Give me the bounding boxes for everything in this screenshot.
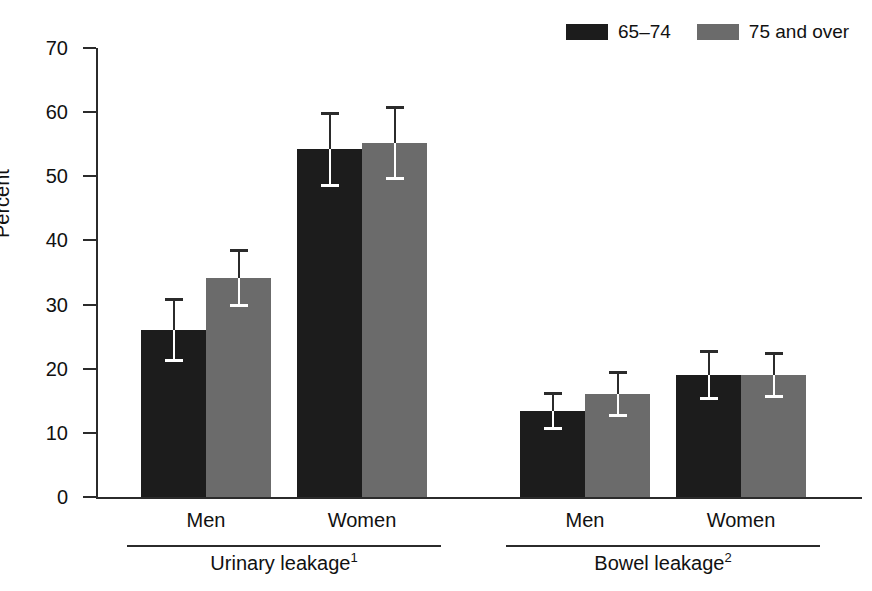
bar-75-and-over-0-error-bar [206, 249, 271, 307]
bar-65-74-2-error-bar [520, 392, 585, 430]
x-category-label-2: Men [525, 510, 645, 530]
legend-label-75-and-over: 75 and over [749, 22, 849, 41]
x-category-label-1: Women [302, 510, 422, 530]
group-label-0: Urinary leakage1 [144, 552, 424, 574]
bar-75-and-over-1-error-bar [362, 106, 427, 180]
bar-65-74-3-error-bar [676, 350, 741, 400]
y-tick-label-70: 70 [22, 38, 68, 58]
error-bar-cap-above-bar [230, 249, 248, 252]
group-rule-0 [127, 545, 441, 547]
error-bar-stem-above-bar [708, 350, 710, 375]
error-bar-cap-above-bar [544, 392, 562, 395]
error-bar-stem-above-bar [773, 352, 775, 375]
error-bar-cap-lower [321, 184, 339, 187]
y-tick-60 [83, 111, 96, 113]
y-tick-label-20: 20 [22, 359, 68, 379]
legend-swatch-65-74 [566, 24, 608, 40]
y-tick-label-60: 60 [22, 102, 68, 122]
error-bar-cap-above-bar [700, 350, 718, 353]
bar-75-and-over-2-error-bar [585, 371, 650, 417]
y-axis-title: Percent [0, 169, 12, 238]
error-bar-stem-above-bar [173, 298, 175, 330]
y-axis-line [96, 48, 98, 497]
legend-entry-75-and-over: 75 and over [697, 22, 849, 41]
error-bar-cap-lower [230, 304, 248, 307]
bar-65-74-1-error-bar [297, 112, 362, 187]
x-category-label-3: Women [681, 510, 801, 530]
y-tick-label-0: 0 [22, 487, 68, 507]
y-tick-label-50: 50 [22, 166, 68, 186]
group-footnote-marker-0: 1 [350, 550, 357, 565]
bar-75-and-over-1[interactable] [362, 143, 427, 497]
legend-entry-65-74: 65–74 [566, 22, 671, 41]
bar-75-and-over-0[interactable] [206, 278, 271, 497]
error-bar-cap-above-bar [386, 106, 404, 109]
y-tick-label-10: 10 [22, 423, 68, 443]
y-tick-50 [83, 175, 96, 177]
y-tick-0 [83, 496, 96, 498]
y-tick-10 [83, 432, 96, 434]
error-bar-cap-lower [165, 359, 183, 362]
bar-65-74-0-error-bar [141, 298, 206, 362]
error-bar-stem-above-bar [394, 106, 396, 143]
y-tick-70 [83, 47, 96, 49]
bar-75-and-over-3-error-bar [741, 352, 806, 398]
error-bar-cap-lower [765, 395, 783, 398]
legend-label-65-74: 65–74 [618, 22, 671, 41]
x-axis-line [96, 497, 862, 499]
legend-swatch-75-and-over [697, 24, 739, 40]
error-bar-cap-lower [386, 177, 404, 180]
group-label-1: Bowel leakage2 [523, 552, 803, 574]
x-category-label-0: Men [146, 510, 266, 530]
error-bar-cap-above-bar [765, 352, 783, 355]
y-tick-30 [83, 304, 96, 306]
plot-area: 010203040506070 [96, 48, 862, 497]
y-tick-label-40: 40 [22, 230, 68, 250]
error-bar-stem-above-bar [617, 371, 619, 394]
chart-container: 65–74 75 and over Percent 01020304050607… [0, 0, 872, 591]
error-bar-cap-above-bar [609, 371, 627, 374]
y-tick-20 [83, 368, 96, 370]
error-bar-cap-lower [700, 397, 718, 400]
bar-65-74-1[interactable] [297, 149, 362, 497]
group-rule-1 [506, 545, 820, 547]
error-bar-stem-above-bar [329, 112, 331, 149]
group-footnote-marker-1: 2 [724, 550, 731, 565]
error-bar-cap-lower [609, 414, 627, 417]
error-bar-cap-above-bar [321, 112, 339, 115]
chart-legend: 65–74 75 and over [566, 22, 849, 41]
y-tick-40 [83, 239, 96, 241]
error-bar-stem-above-bar [238, 249, 240, 278]
error-bar-cap-lower [544, 427, 562, 430]
error-bar-cap-above-bar [165, 298, 183, 301]
y-tick-label-30: 30 [22, 295, 68, 315]
